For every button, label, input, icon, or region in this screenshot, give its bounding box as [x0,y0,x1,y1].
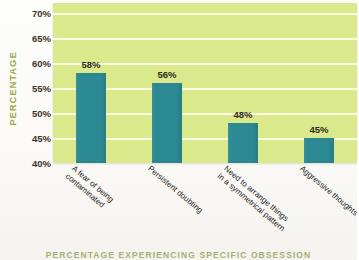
bar-value-label: 58% [81,59,100,70]
bar-group[interactable]: 48% [205,3,281,163]
y-axis-tick-label: 45% [18,133,51,144]
y-axis-tick-label: 65% [18,33,51,44]
plot-area: 58%56%48%45% [53,3,357,163]
bar-value-label: 48% [233,109,252,120]
x-axis-category-label: A fear of beingcontaminated [63,164,115,212]
bar-group[interactable]: 56% [129,3,205,163]
x-axis-category-label: Aggressive thoughts [297,164,359,218]
bar[interactable] [304,138,334,163]
y-axis-tick-label: 60% [18,58,51,69]
x-axis-category-label: Need to arrange thingsin a symmetrical p… [215,164,293,234]
x-axis-caption: PERCENTAGE EXPERIENCING SPECIFIC OBSESSI… [0,250,357,260]
y-axis-title-text: PERCENTAGE [7,51,18,125]
bar-value-label: 45% [309,124,328,135]
y-axis-tick-labels: 40%45%50%55%60%65%70% [18,0,51,170]
bar-value-label: 56% [157,69,176,80]
x-axis-category-label-line: Aggressive thoughts [298,164,359,217]
x-axis-category-label-line: in a symmetrical pattern [215,172,286,234]
bar[interactable] [228,123,258,163]
x-axis-category-labels: A fear of beingcontaminatedPersistent do… [53,164,357,244]
bar-group[interactable]: 45% [281,3,357,163]
y-axis-tick-label: 40% [18,158,51,169]
bars-layer: 58%56%48%45% [53,3,357,163]
bar[interactable] [152,83,182,163]
x-axis-category-label: Persistent doubting [145,164,204,216]
y-axis-tick-label: 50% [18,108,51,119]
bar[interactable] [76,73,106,163]
x-axis-category-label-line: Persistent doubting [146,164,204,215]
y-axis-tick-label: 55% [18,83,51,94]
bar-group[interactable]: 58% [53,3,129,163]
y-axis-tick-label: 70% [18,8,51,19]
